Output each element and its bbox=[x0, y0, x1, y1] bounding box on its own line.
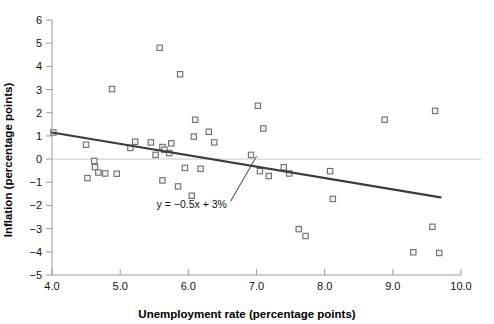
data-point bbox=[148, 140, 153, 145]
data-point bbox=[411, 250, 416, 255]
y-tick-label: 2 bbox=[36, 107, 42, 119]
y-tick-label: −5 bbox=[29, 269, 42, 281]
data-point bbox=[102, 171, 107, 176]
data-point bbox=[83, 142, 88, 147]
data-point bbox=[198, 166, 203, 171]
chart-canvas: 6543210−1−2−3−4−5 4.05.06.07.08.09.010.0… bbox=[0, 0, 494, 324]
data-point bbox=[85, 175, 90, 180]
y-axis-title: Inflation (percentage points) bbox=[2, 83, 14, 238]
data-point bbox=[296, 226, 301, 231]
y-tick-label: −2 bbox=[29, 199, 42, 211]
data-point bbox=[303, 233, 308, 238]
data-point bbox=[261, 126, 266, 131]
x-tick-label: 6.0 bbox=[181, 280, 196, 292]
y-tick-label: 6 bbox=[36, 14, 42, 26]
data-point bbox=[92, 165, 97, 170]
data-point bbox=[92, 158, 97, 163]
data-point bbox=[182, 165, 187, 170]
data-point bbox=[257, 168, 262, 173]
annotation-text: y = −0.5x + 3% bbox=[157, 198, 227, 210]
data-point bbox=[330, 196, 335, 201]
data-point bbox=[266, 173, 271, 178]
data-point bbox=[177, 72, 182, 77]
x-tick-label: 10.0 bbox=[450, 280, 471, 292]
data-point bbox=[96, 170, 101, 175]
y-tick-label: −3 bbox=[29, 223, 42, 235]
data-point bbox=[175, 184, 180, 189]
x-tick-label: 5.0 bbox=[113, 280, 128, 292]
data-point bbox=[191, 134, 196, 139]
data-point bbox=[430, 224, 435, 229]
x-tick-label: 8.0 bbox=[317, 280, 332, 292]
y-tick-label: −1 bbox=[29, 176, 42, 188]
data-point bbox=[327, 168, 332, 173]
data-point bbox=[109, 86, 114, 91]
data-point bbox=[436, 250, 441, 255]
data-point bbox=[114, 171, 119, 176]
y-tick-label: 1 bbox=[36, 130, 42, 142]
x-tick-label: 7.0 bbox=[249, 280, 264, 292]
y-tick-label: 3 bbox=[36, 84, 42, 96]
data-point bbox=[157, 45, 162, 50]
data-point bbox=[255, 103, 260, 108]
data-point bbox=[248, 152, 253, 157]
y-tick-label: −4 bbox=[29, 246, 42, 258]
data-point bbox=[432, 108, 437, 113]
data-point bbox=[169, 141, 174, 146]
data-point bbox=[206, 129, 211, 134]
data-point bbox=[160, 178, 165, 183]
data-point bbox=[212, 140, 217, 145]
data-point bbox=[192, 117, 197, 122]
x-tick-label: 9.0 bbox=[385, 280, 400, 292]
x-tick-label: 4.0 bbox=[44, 280, 59, 292]
y-tick-label: 0 bbox=[36, 153, 42, 165]
y-tick-label: 5 bbox=[36, 37, 42, 49]
y-tick-label: 4 bbox=[36, 60, 42, 72]
data-point bbox=[132, 139, 137, 144]
data-point bbox=[281, 165, 286, 170]
data-point bbox=[153, 152, 158, 157]
scatter-chart: 6543210−1−2−3−4−5 4.05.06.07.08.09.010.0… bbox=[0, 0, 494, 324]
x-axis-title: Unemployment rate (percentage points) bbox=[138, 308, 355, 320]
data-point bbox=[382, 117, 387, 122]
